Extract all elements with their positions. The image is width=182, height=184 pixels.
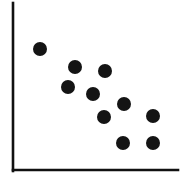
data-point: [97, 110, 111, 124]
data-point: [68, 60, 82, 74]
data-point: [116, 136, 130, 150]
data-point: [146, 109, 160, 123]
plot-canvas: [0, 0, 182, 184]
data-point: [33, 42, 47, 56]
data-point: [61, 80, 75, 94]
data-point: [98, 64, 112, 78]
scatter-plot-figure: [0, 0, 182, 184]
data-point: [117, 97, 131, 111]
data-point: [146, 136, 160, 150]
data-point: [86, 87, 100, 101]
